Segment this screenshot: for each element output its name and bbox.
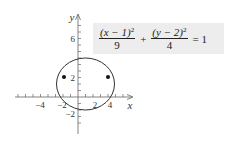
y-axis-label: y xyxy=(69,11,75,23)
focus-point-right xyxy=(106,75,110,79)
equation-box: (x − 1)2 9 + (y − 2)2 4 = 1 xyxy=(93,23,224,54)
x-tick-label: −4 xyxy=(35,100,45,110)
fraction-x-term: (x − 1)2 9 xyxy=(99,26,135,51)
y-tick-label: −2 xyxy=(65,109,75,119)
equals-one: = 1 xyxy=(193,33,207,45)
term1-numerator: (x − 1) xyxy=(100,26,131,38)
x-tick-label: 4 xyxy=(108,100,113,110)
x-axis-label: x xyxy=(127,99,133,111)
focus-point-left xyxy=(62,75,66,79)
term1-denominator: 9 xyxy=(114,39,120,51)
y-tick-label: 6 xyxy=(71,34,76,44)
ellipse-plot: −4 −2 2 4 6 2 −2 y x xyxy=(0,0,226,142)
x-ticks xyxy=(18,94,123,97)
plus-operator: + xyxy=(140,33,146,45)
y-ticks xyxy=(78,26,81,124)
term2-denominator: 4 xyxy=(167,39,173,51)
fraction-y-term: (y − 2)2 4 xyxy=(151,26,187,51)
y-tick-label: 2 xyxy=(71,73,76,83)
term1-exponent: 2 xyxy=(131,26,135,34)
term2-numerator: (y − 2) xyxy=(152,26,183,38)
term2-exponent: 2 xyxy=(183,26,187,34)
ellipse-curve xyxy=(57,58,115,110)
